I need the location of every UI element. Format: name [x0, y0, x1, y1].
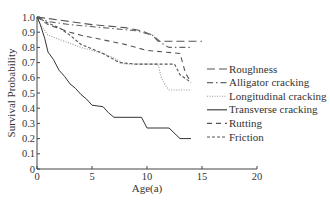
- legend-label: Transverse cracking: [229, 103, 318, 115]
- legend-item: Longitudinal cracking: [207, 90, 327, 102]
- y-tick-label: 0.2: [22, 133, 35, 144]
- y-tick-label: 0.8: [22, 42, 35, 53]
- x-tick-label: 0: [34, 171, 39, 182]
- y-tick-label: 0.6: [22, 72, 35, 83]
- legend: RoughnessAlligator crackingLongitudinal …: [207, 63, 327, 143]
- x-tick-label: 20: [252, 171, 263, 182]
- x-axis-title: Age(a): [132, 182, 163, 195]
- y-tick-label: 1.0: [22, 12, 35, 23]
- series-alligator-cracking: [37, 17, 191, 47]
- x-tick-label: 15: [197, 171, 208, 182]
- legend-label: Longitudinal cracking: [229, 90, 327, 102]
- legend-item: Transverse cracking: [207, 103, 318, 115]
- y-tick-label: 0.4: [22, 103, 36, 114]
- series-lines: [37, 17, 202, 139]
- legend-label: Rutting: [229, 117, 263, 129]
- y-tick-label: 0.9: [22, 27, 35, 38]
- legend-label: Friction: [229, 131, 264, 143]
- series-transverse-cracking: [37, 17, 191, 139]
- legend-item: Rutting: [207, 117, 263, 129]
- axes: [37, 17, 257, 169]
- y-tick-label: 0.5: [22, 88, 35, 99]
- legend-label: Roughness: [229, 63, 277, 75]
- x-tick-label: 5: [89, 171, 94, 182]
- legend-item: Alligator cracking: [207, 76, 310, 88]
- legend-item: Friction: [207, 131, 264, 143]
- x-tick-label: 10: [142, 171, 153, 182]
- y-tick-label: 0.1: [22, 148, 35, 159]
- legend-label: Alligator cracking: [229, 76, 310, 88]
- legend-item: Roughness: [207, 63, 277, 75]
- y-axis-title: Survival Probability: [5, 48, 17, 137]
- survival-chart: 00.10.20.30.40.50.60.70.80.91.0 05101520…: [0, 0, 330, 204]
- y-tick-label: 0.3: [22, 118, 35, 129]
- x-axis-ticks: 05101520: [34, 166, 262, 182]
- y-tick-label: 0.7: [22, 57, 35, 68]
